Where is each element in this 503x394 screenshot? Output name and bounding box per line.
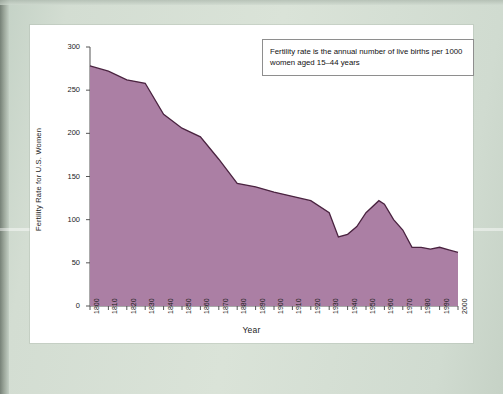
x-axis-ticks — [90, 306, 458, 310]
y-axis-ticks — [86, 47, 90, 306]
y-axis-tick-label: 250 — [54, 85, 80, 94]
x-axis-tick-label: 1810 — [111, 298, 118, 314]
x-axis-tick-label: 1910 — [295, 298, 302, 314]
x-axis-tick-label: 1940 — [351, 298, 358, 314]
x-axis-tick-label: 1960 — [387, 298, 394, 314]
x-axis-tick-label: 1800 — [93, 298, 100, 314]
x-axis-tick-label: 1880 — [240, 298, 247, 314]
x-axis-tick-label: 1830 — [148, 298, 155, 314]
x-axis-title: Year — [30, 325, 473, 335]
x-axis-tick-label: 1850 — [185, 298, 192, 314]
chart-annotation-box: Fertility rate is the annual number of l… — [262, 39, 474, 76]
x-axis-tick-label: 1870 — [222, 298, 229, 314]
y-axis-title: Fertility Rate for U.S. Women — [34, 90, 43, 270]
y-axis-tick-label: 150 — [54, 172, 80, 181]
x-axis-tick-label: 1920 — [314, 298, 321, 314]
x-axis-tick-label: 1980 — [424, 298, 431, 314]
x-axis-tick-label: 1840 — [167, 298, 174, 314]
y-axis-tick-label: 300 — [54, 42, 80, 51]
x-axis-tick-label: 1860 — [203, 298, 210, 314]
chart-card: Fertility Rate for U.S. Women Year Ferti… — [30, 25, 473, 343]
x-axis-tick-label: 1970 — [406, 298, 413, 314]
y-axis-tick-label: 100 — [54, 215, 80, 224]
fertility-area-fill — [90, 66, 458, 306]
x-axis-tick-label: 1950 — [369, 298, 376, 314]
y-axis-tick-label: 200 — [54, 128, 80, 137]
x-axis-tick-label: 1890 — [259, 298, 266, 314]
x-axis-tick-label: 1900 — [277, 298, 284, 314]
x-axis-tick-label: 1820 — [130, 298, 137, 314]
chart-plot-area: Fertility Rate for U.S. Women Year Ferti… — [30, 25, 473, 343]
y-axis-tick-label: 50 — [54, 258, 80, 267]
x-axis-tick-label: 2000 — [461, 298, 468, 314]
y-axis-tick-label: 0 — [54, 301, 80, 310]
x-axis-tick-label: 1930 — [332, 298, 339, 314]
x-axis-tick-label: 1990 — [443, 298, 450, 314]
